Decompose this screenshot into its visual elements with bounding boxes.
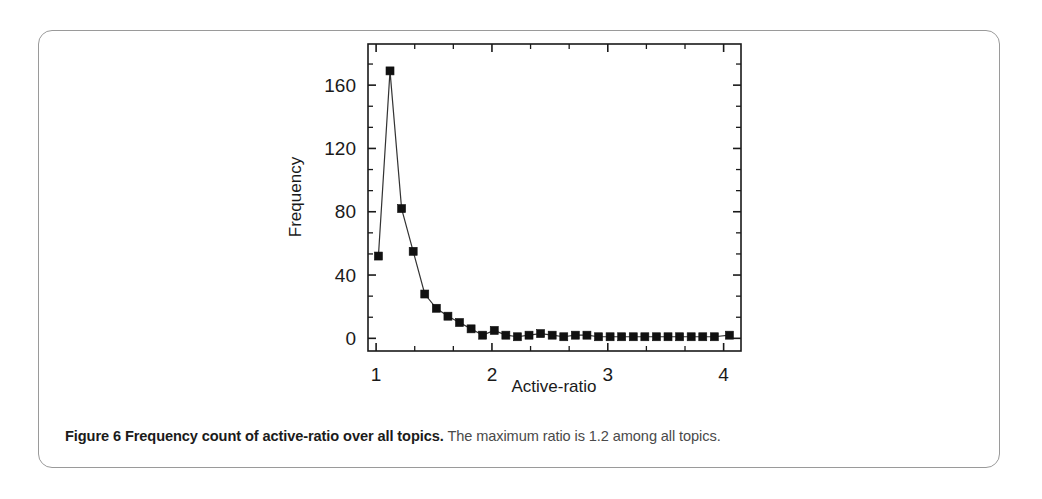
data-point-marker [641, 333, 649, 341]
figure-caption: Figure 6 Frequency count of active-ratio… [65, 427, 975, 446]
data-point-marker [548, 331, 556, 339]
data-point-marker [479, 331, 487, 339]
data-point-marker [652, 333, 660, 341]
frequency-line-chart: 1234 04080120160 Active-ratio Frequency [39, 31, 1001, 401]
data-point-marker [710, 333, 718, 341]
y-axis-title: Frequency [286, 156, 305, 237]
data-point-marker [456, 319, 464, 327]
data-point-marker [629, 333, 637, 341]
y-tick-label: 160 [324, 75, 356, 96]
y-axis-minor-ticks [368, 64, 741, 317]
x-tick-label: 4 [718, 364, 729, 385]
data-point-marker [560, 333, 568, 341]
y-tick-label: 40 [335, 265, 356, 286]
caption-title: Figure 6 Frequency count of active-ratio… [65, 428, 444, 444]
y-axis-major-ticks [368, 85, 741, 338]
data-point-marker [421, 290, 429, 298]
figure-page: 1234 04080120160 Active-ratio Frequency … [0, 0, 1042, 499]
y-tick-label: 0 [345, 328, 356, 349]
x-tick-label: 3 [602, 364, 613, 385]
figure-container: 1234 04080120160 Active-ratio Frequency … [38, 30, 1000, 468]
series-line [378, 71, 729, 337]
data-point-marker [490, 326, 498, 334]
data-point-marker [374, 252, 382, 260]
chart-plot-area: 1234 04080120160 Active-ratio Frequency [39, 31, 1001, 401]
data-point-marker [618, 333, 626, 341]
data-point-marker [676, 333, 684, 341]
y-axis-tick-labels: 04080120160 [324, 75, 356, 349]
data-point-marker [444, 312, 452, 320]
data-point-marker [606, 333, 614, 341]
data-point-marker [525, 331, 533, 339]
plot-frame [368, 44, 741, 351]
data-point-marker [502, 331, 510, 339]
x-tick-label: 2 [487, 364, 498, 385]
data-point-marker [583, 331, 591, 339]
data-point-marker [664, 333, 672, 341]
caption-description: The maximum ratio is 1.2 among all topic… [444, 428, 721, 444]
data-point-marker [513, 333, 521, 341]
y-tick-label: 80 [335, 201, 356, 222]
series-markers [374, 67, 733, 341]
data-point-marker [687, 333, 695, 341]
data-point-marker [398, 205, 406, 213]
data-point-marker [595, 333, 603, 341]
x-axis-minor-ticks [415, 44, 685, 351]
data-point-marker [386, 67, 394, 75]
x-axis-title: Active-ratio [511, 377, 596, 396]
x-tick-label: 1 [371, 364, 382, 385]
y-tick-label: 120 [324, 138, 356, 159]
data-point-marker [409, 247, 417, 255]
data-point-marker [467, 325, 475, 333]
data-point-marker [725, 331, 733, 339]
x-axis-major-ticks [376, 44, 724, 351]
data-point-marker [699, 333, 707, 341]
data-point-marker [571, 331, 579, 339]
data-point-marker [432, 304, 440, 312]
data-point-marker [537, 330, 545, 338]
